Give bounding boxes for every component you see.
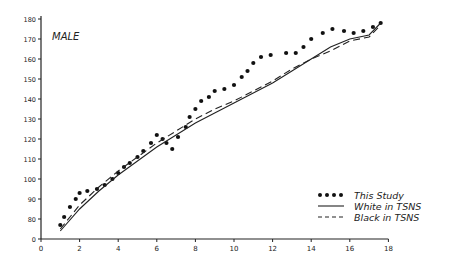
x-tick-label: 2 bbox=[77, 245, 81, 253]
data-point bbox=[149, 141, 153, 145]
data-point bbox=[232, 83, 236, 87]
x-tick-label: 4 bbox=[116, 245, 121, 253]
legend-label: Black in TSNS bbox=[354, 212, 419, 223]
data-point bbox=[85, 189, 89, 193]
data-point bbox=[74, 197, 78, 201]
y-tick-label: 170 bbox=[24, 36, 36, 44]
x-tick-label: 6 bbox=[155, 245, 160, 253]
data-point bbox=[155, 133, 159, 137]
chart-title: MALE bbox=[52, 31, 80, 42]
legend-label: White in TSNS bbox=[354, 201, 421, 212]
x-tick-label: 0 bbox=[39, 245, 43, 253]
data-point bbox=[199, 99, 203, 103]
x-tick-label: 12 bbox=[268, 245, 277, 253]
data-point bbox=[309, 37, 313, 41]
y-tick-label: 160 bbox=[24, 56, 36, 64]
y-tick-label: 80 bbox=[28, 216, 36, 224]
axis-ticks: 0809010011012013014015016017018002468101… bbox=[24, 16, 393, 254]
data-point bbox=[62, 215, 66, 219]
data-point bbox=[188, 115, 192, 119]
data-point bbox=[245, 69, 249, 73]
data-point bbox=[128, 161, 132, 165]
y-tick-label: 180 bbox=[24, 16, 36, 24]
data-point bbox=[222, 87, 226, 91]
y-tick-label: 90 bbox=[28, 196, 36, 204]
x-tick-label: 10 bbox=[230, 245, 239, 253]
data-point bbox=[207, 95, 211, 99]
white-tsns-line bbox=[60, 23, 380, 231]
data-point bbox=[78, 191, 82, 195]
data-point bbox=[361, 29, 365, 33]
black-tsns-line bbox=[60, 25, 380, 229]
data-point bbox=[170, 147, 174, 151]
y-tick-label: 120 bbox=[24, 136, 36, 144]
data-point bbox=[301, 45, 305, 49]
data-point bbox=[193, 107, 197, 111]
x-tick-label: 14 bbox=[307, 245, 316, 253]
data-point bbox=[371, 25, 375, 29]
x-tick-label: 18 bbox=[384, 245, 393, 253]
growth-chart: 0809010011012013014015016017018002468101… bbox=[0, 0, 469, 267]
data-point bbox=[213, 89, 217, 93]
y-tick-label: 100 bbox=[24, 176, 36, 184]
data-point bbox=[269, 53, 273, 57]
y-tick-label: 150 bbox=[24, 76, 36, 84]
y-tick-label: 0 bbox=[32, 236, 36, 244]
plot-area bbox=[58, 21, 383, 231]
data-point bbox=[330, 27, 334, 31]
x-tick-label: 16 bbox=[345, 245, 354, 253]
data-point bbox=[240, 75, 244, 79]
data-point bbox=[176, 135, 180, 139]
data-point bbox=[251, 61, 255, 65]
data-point bbox=[352, 31, 356, 35]
legend-label: This Study bbox=[354, 190, 404, 201]
data-point bbox=[342, 29, 346, 33]
data-point bbox=[68, 205, 72, 209]
y-tick-label: 130 bbox=[24, 116, 36, 124]
y-tick-label: 140 bbox=[24, 96, 36, 104]
data-point bbox=[284, 51, 288, 55]
data-point bbox=[294, 51, 298, 55]
y-tick-label: 110 bbox=[24, 156, 36, 164]
data-point bbox=[259, 55, 263, 59]
data-point bbox=[321, 31, 325, 35]
legend: This StudyWhite in TSNSBlack in TSNS bbox=[318, 190, 421, 223]
x-tick-label: 8 bbox=[193, 245, 197, 253]
